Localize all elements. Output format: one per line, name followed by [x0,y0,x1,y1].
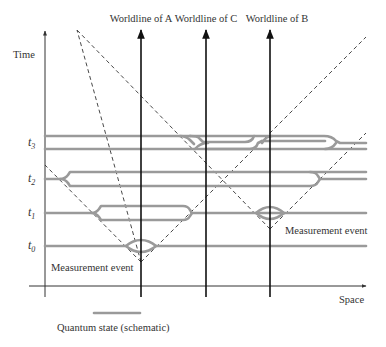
time-label-t1: t1 [28,205,35,221]
time-axis-label: Time [13,49,35,60]
light-cone-b [77,30,366,229]
legend-label: Quantum state (schematic) [57,322,170,334]
worldline-a-label: Worldline of A [110,13,173,24]
time-label-t2: t2 [28,171,35,187]
legend: Quantum state (schematic) [57,313,170,334]
space-axis-label: Space [339,294,364,305]
measurement-event-b-label: Measurement event [285,225,368,236]
time-label-t0: t0 [28,238,35,254]
svg-text:t0: t0 [28,238,35,254]
svg-text:t3: t3 [28,135,35,151]
spacetime-diagram: Worldline of A Worldline of C Worldline … [0,0,386,347]
measurement-event-a-label: Measurement event [51,262,134,273]
worldline-c-label: Worldline of C [175,13,238,24]
svg-text:t1: t1 [28,205,35,221]
time-label-t3: t3 [28,135,35,151]
worldline-b-label: Worldline of B [246,13,309,24]
svg-text:t2: t2 [28,171,35,187]
